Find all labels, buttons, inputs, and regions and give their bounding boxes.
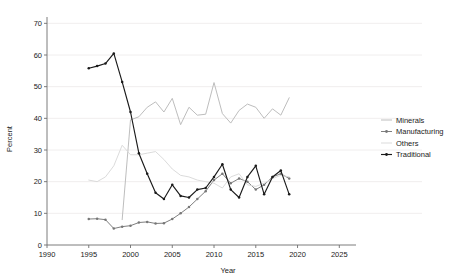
legend-label: Minerals [396,116,425,125]
chart-legend: MineralsManufacturingOthersTraditional [381,116,444,160]
gridlines [47,23,422,213]
line-chart: 0102030405060701990199520002005201020152… [0,0,456,278]
svg-text:20: 20 [34,177,42,186]
legend-item-traditional[interactable]: Traditional [381,150,431,159]
svg-text:2025: 2025 [331,250,348,259]
legend-item-manufacturing[interactable]: Manufacturing [381,127,444,136]
svg-text:2010: 2010 [206,250,223,259]
series-traditional [88,52,291,200]
axes [47,17,356,245]
svg-text:70: 70 [34,19,42,28]
data-series-group [88,52,291,230]
legend-label: Others [396,139,419,148]
svg-text:60: 60 [34,51,42,60]
svg-text:30: 30 [34,146,42,155]
svg-text:1990: 1990 [39,250,56,259]
svg-text:2015: 2015 [247,250,264,259]
series-minerals [122,83,289,220]
y-axis-label: Percent [5,126,14,152]
legend-label: Manufacturing [396,127,444,136]
svg-text:2005: 2005 [164,250,181,259]
legend-label: Traditional [396,150,431,159]
svg-text:1995: 1995 [80,250,97,259]
svg-text:50: 50 [34,82,42,91]
svg-text:0: 0 [38,241,42,250]
axis-ticks [44,23,339,248]
legend-item-minerals[interactable]: Minerals [381,116,425,125]
svg-text:2020: 2020 [289,250,306,259]
y-axis-label-wrap: Percent [2,109,16,169]
chart-canvas: 0102030405060701990199520002005201020152… [0,0,456,278]
svg-text:2000: 2000 [122,250,139,259]
svg-text:40: 40 [34,114,42,123]
svg-text:10: 10 [34,209,42,218]
legend-item-others[interactable]: Others [381,139,419,148]
x-axis-label: Year [0,266,456,275]
